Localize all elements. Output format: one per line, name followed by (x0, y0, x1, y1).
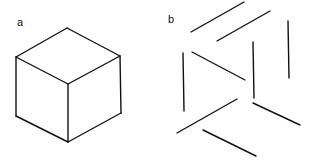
line-segment (68, 113, 121, 142)
line-segment (16, 57, 68, 84)
line-segment (177, 99, 237, 133)
line-segment (16, 116, 68, 142)
line-segment (217, 11, 270, 41)
line-segment (253, 42, 254, 98)
line-segment (192, 52, 245, 80)
line-segment (120, 56, 121, 113)
line-segment (191, 2, 244, 32)
line-segment (288, 21, 289, 78)
panel-label-b: b (168, 14, 174, 25)
cube-drawing (0, 0, 156, 165)
line-segment (203, 130, 256, 156)
panel-a-complete-cube (0, 0, 156, 165)
fragmented-lines-drawing (156, 0, 313, 165)
line-segment (183, 53, 184, 111)
panel-label-a: a (17, 17, 23, 28)
line-segment (16, 28, 67, 57)
line-segment (253, 103, 300, 125)
line-segment (67, 28, 120, 56)
panel-b-fragmented-cube (156, 0, 313, 165)
line-segment (68, 56, 120, 84)
